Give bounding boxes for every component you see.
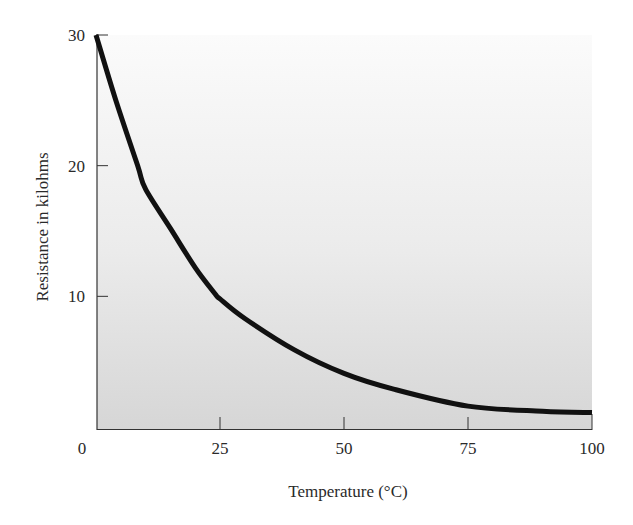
y-axis-title: Resistance in kilohms <box>33 152 52 301</box>
x-tick-label: 75 <box>460 439 477 458</box>
x-tick-label: 50 <box>336 439 353 458</box>
resistance-vs-temperature-chart: 0255075100 102030 Temperature (°C) Resis… <box>0 0 633 525</box>
y-tick-label: 20 <box>68 157 85 176</box>
y-tick-label: 30 <box>68 26 85 45</box>
x-axis-title: Temperature (°C) <box>288 482 407 501</box>
x-tick-label: 100 <box>579 439 605 458</box>
y-tick-label: 10 <box>68 287 85 306</box>
x-tick-label: 0 <box>78 439 87 458</box>
x-tick-label: 25 <box>212 439 229 458</box>
